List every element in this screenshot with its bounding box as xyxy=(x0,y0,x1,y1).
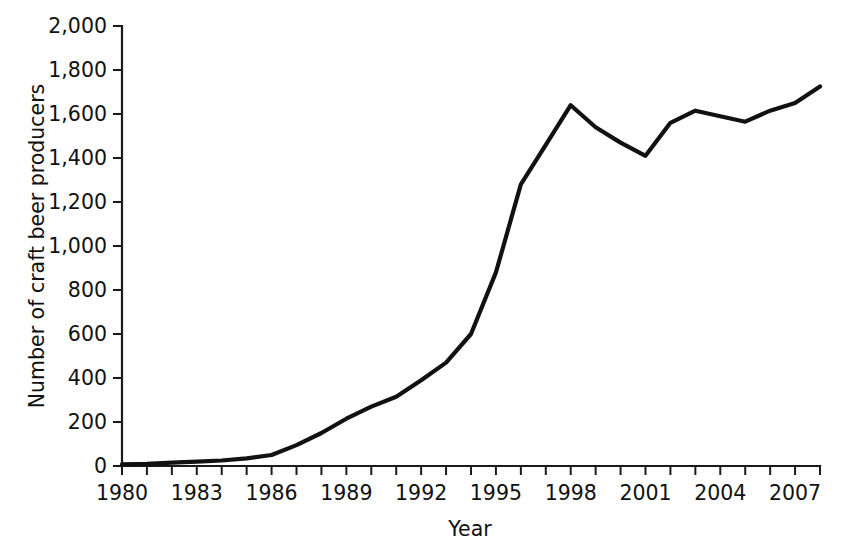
y-tick-label: 200 xyxy=(68,410,107,434)
axis-spine xyxy=(122,26,820,466)
x-axis-tick-labels: 1980198319861989199219951998200120042007 xyxy=(96,481,821,505)
y-tick-label: 1,600 xyxy=(48,102,107,126)
x-tick-label: 1992 xyxy=(395,481,447,505)
y-tick-label: 800 xyxy=(68,278,107,302)
x-axis-title: Year xyxy=(447,517,492,541)
y-axis-title: Number of craft beer producers xyxy=(25,84,49,409)
y-tick-label: 1,800 xyxy=(48,58,107,82)
data-line-series xyxy=(122,87,820,465)
y-tick-label: 0 xyxy=(94,454,107,478)
x-axis-ticks xyxy=(122,466,820,475)
data-series-group xyxy=(122,87,820,465)
axes-group xyxy=(122,26,820,466)
y-tick-label: 600 xyxy=(68,322,107,346)
x-tick-label: 1989 xyxy=(320,481,372,505)
y-tick-label: 1,200 xyxy=(48,190,107,214)
figure-canvas: 02004006008001,0001,2001,4001,6001,8002,… xyxy=(0,0,852,555)
y-tick-label: 1,400 xyxy=(48,146,107,170)
y-tick-label: 1,000 xyxy=(48,234,107,258)
y-tick-label: 2,000 xyxy=(48,14,107,38)
x-tick-label: 1998 xyxy=(545,481,597,505)
x-tick-label: 1986 xyxy=(245,481,297,505)
y-axis-tick-labels: 02004006008001,0001,2001,4001,6001,8002,… xyxy=(48,14,107,478)
x-tick-label: 2007 xyxy=(769,481,821,505)
x-tick-label: 2001 xyxy=(619,481,671,505)
y-tick-label: 400 xyxy=(68,366,107,390)
line-chart: 02004006008001,0001,2001,4001,6001,8002,… xyxy=(0,0,852,555)
x-tick-label: 2004 xyxy=(694,481,746,505)
x-tick-label: 1980 xyxy=(96,481,148,505)
y-axis-ticks xyxy=(113,26,122,466)
x-tick-label: 1995 xyxy=(470,481,522,505)
x-tick-label: 1983 xyxy=(171,481,223,505)
